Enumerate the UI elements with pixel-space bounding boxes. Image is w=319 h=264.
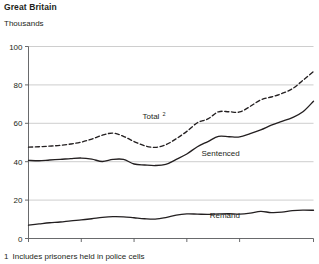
chart-plot-area: 020406080100198019851990199520002007Tota… [0, 0, 319, 245]
ytick-label-100: 100 [9, 43, 23, 52]
series-label-remand: Remand [210, 211, 240, 220]
series-label-total: Total [142, 112, 159, 121]
ytick-label-0: 0 [18, 235, 23, 244]
series-label-sentenced: Sentenced [201, 149, 239, 158]
series-line-total [29, 71, 314, 147]
footnote-marker: 1 [4, 252, 8, 261]
ytick-label-80: 80 [14, 81, 23, 90]
series-line-sentenced [29, 101, 314, 165]
ytick-label-20: 20 [14, 196, 23, 205]
ytick-label-40: 40 [14, 158, 23, 167]
figure-footnote: 1Includes prisoners held in police cells [4, 252, 145, 261]
series-line-remand [29, 210, 314, 225]
series-label-superscript-total: 2 [162, 111, 165, 117]
footnote-text: Includes prisoners held in police cells [12, 252, 144, 261]
ytick-label-60: 60 [14, 119, 23, 128]
prison-population-chart-figure: Great Britain Thousands 0204060801001980… [0, 0, 319, 264]
